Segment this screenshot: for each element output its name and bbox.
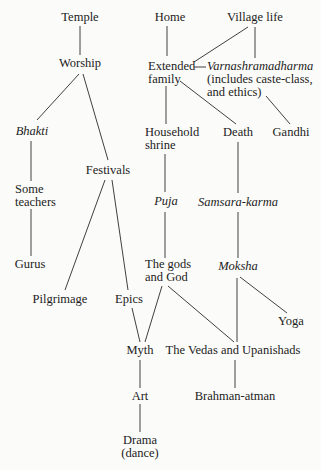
node-label: Puja	[154, 195, 178, 208]
node-label: (dance)	[121, 447, 158, 460]
node-pilgrimage: Pilgrimage	[33, 293, 88, 306]
node-label: The Vedas and Upanishads	[166, 344, 301, 357]
node-label: Epics	[115, 293, 143, 306]
node-festivals: Festivals	[86, 164, 130, 177]
node-label: Moksha	[218, 260, 258, 273]
node-gurus: Gurus	[15, 258, 46, 271]
node-label: shrine	[145, 139, 199, 152]
node-samsara-karma: Samsara-karma	[198, 196, 278, 209]
node-gandhi: Gandhi	[273, 126, 310, 139]
node-label: Brahman-atman	[195, 390, 276, 403]
node-vedas-upanishads: The Vedas and Upanishads	[166, 344, 301, 357]
node-label: Pilgrimage	[33, 293, 88, 306]
edge-villagelife-extendedfamily	[194, 27, 248, 62]
node-moksha: Moksha	[218, 260, 258, 273]
node-label: Yoga	[278, 315, 304, 328]
edge-epics-myth	[132, 308, 140, 342]
node-worship: Worship	[59, 57, 101, 70]
edge-varnashramadharma-gandhi	[266, 96, 290, 124]
node-label: Gandhi	[273, 126, 310, 139]
node-yoga: Yoga	[278, 315, 304, 328]
node-village-life: Village life	[227, 11, 283, 24]
node-label: Village life	[227, 11, 283, 24]
node-bhakti: Bhakti	[16, 125, 49, 138]
node-myth: Myth	[126, 344, 153, 357]
edge-festivals-epics	[112, 180, 128, 290]
edge-worship-bhakti	[37, 74, 79, 120]
node-puja: Puja	[154, 195, 178, 208]
node-epics: Epics	[115, 293, 143, 306]
node-label: and ethics)	[207, 86, 313, 99]
concept-diagram: Temple Home Village life Worship Extende…	[0, 0, 321, 470]
edge-godsandgod-myth	[145, 286, 162, 342]
edge-moksha-yoga	[240, 277, 287, 313]
node-home: Home	[155, 11, 186, 24]
node-some-teachers: Some teachers	[15, 183, 56, 209]
node-extended-family: Extended family	[148, 60, 195, 86]
node-temple: Temple	[61, 11, 98, 24]
node-label: Bhakti	[16, 125, 49, 138]
node-label: Home	[155, 11, 186, 24]
node-art: Art	[132, 390, 149, 403]
node-label: Temple	[61, 11, 98, 24]
node-label: Art	[132, 390, 149, 403]
node-label: Samsara-karma	[198, 196, 278, 209]
edge-worship-festivals	[83, 74, 108, 160]
node-label: Myth	[126, 344, 153, 357]
node-death: Death	[223, 126, 253, 139]
node-label: family	[148, 73, 195, 86]
node-drama-dance: Drama (dance)	[121, 434, 158, 460]
edge-festivals-pilgrimage	[65, 180, 105, 290]
node-label: Death	[223, 126, 253, 139]
node-label: Festivals	[86, 164, 130, 177]
node-varnashramadharma: Varnashramadharma (includes caste-class,…	[207, 60, 313, 99]
node-brahman-atman: Brahman-atman	[195, 390, 276, 403]
node-label: Worship	[59, 57, 101, 70]
node-gods-and-god: The gods and God	[145, 258, 191, 284]
edge-godsandgod-vedas	[168, 286, 234, 342]
node-label: and God	[145, 271, 191, 284]
node-household-shrine: Household shrine	[145, 126, 199, 152]
node-label: Gurus	[15, 258, 46, 271]
node-label: teachers	[15, 196, 56, 209]
